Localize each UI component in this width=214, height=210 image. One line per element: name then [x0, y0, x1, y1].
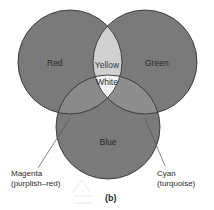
label-cyan-line2: (turquoise): [157, 179, 195, 189]
label-blue: Blue: [99, 138, 116, 147]
label-magenta-line2: (purplish–red): [11, 179, 60, 189]
faint-sketch-icon: [72, 180, 92, 203]
label-magenta: Magenta (purplish–red): [11, 169, 60, 189]
panel-label: (b): [105, 194, 117, 203]
label-red: Red: [47, 59, 63, 68]
label-green: Green: [145, 59, 169, 68]
label-magenta-line1: Magenta: [11, 169, 60, 179]
label-white: White: [96, 78, 118, 87]
label-cyan-line1: Cyan: [157, 169, 195, 179]
label-yellow: Yellow: [95, 61, 119, 70]
label-cyan: Cyan (turquoise): [157, 169, 195, 189]
